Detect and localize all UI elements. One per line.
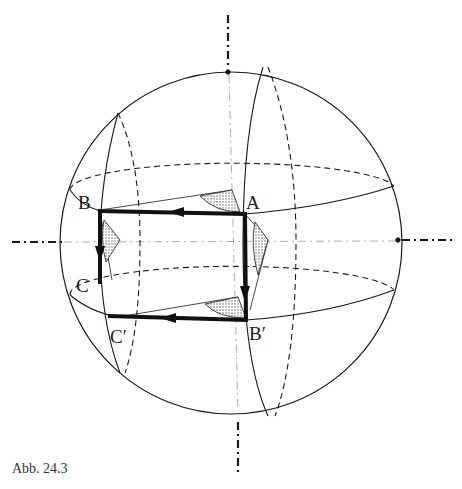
sphere-diagram: [0, 0, 462, 489]
arrow-icon: [168, 207, 184, 217]
point-label-b: B: [78, 193, 91, 212]
arrow-icon: [240, 286, 250, 302]
figure-caption: Abb. 24.3: [12, 461, 68, 477]
point-label-c: C: [76, 276, 89, 295]
point-label-c-prime: C′: [110, 327, 127, 346]
point-label-b-prime: B′: [249, 324, 266, 343]
vertical-axis: [226, 15, 238, 472]
arrow-icon: [95, 246, 105, 262]
point-label-a: A: [246, 193, 260, 212]
arrow-icon: [160, 313, 176, 323]
horizontal-axis: [12, 238, 452, 242]
path-A-to-B-prime: [245, 214, 246, 320]
path-B-prime-to-C-prime: [110, 316, 246, 320]
